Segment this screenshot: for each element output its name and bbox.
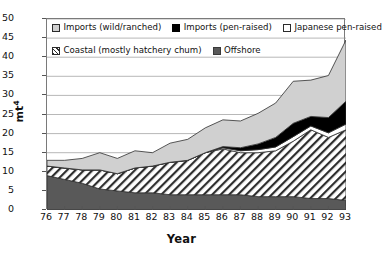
- legend-swatch-japanese: [283, 24, 291, 32]
- y-tick-label: 0: [0, 204, 14, 213]
- legend-swatch-imports-pen: [172, 24, 180, 32]
- y-tick-label: 30: [0, 89, 14, 98]
- legend-label: Offshore: [224, 46, 261, 55]
- legend-item[interactable]: Imports (wild/ranched): [52, 23, 161, 32]
- legend-swatch-offshore: [213, 47, 221, 55]
- y-axis-title-base: mt: [13, 105, 26, 122]
- legend-swatch-coastal: [52, 47, 60, 55]
- legend-item[interactable]: Imports (pen-raised): [172, 23, 272, 32]
- legend-item[interactable]: Offshore: [213, 46, 261, 55]
- y-tick-label: 35: [0, 70, 14, 79]
- y-tick-label: 45: [0, 32, 14, 41]
- legend-row-bottom: Coastal (mostly hatchery chum)Offshore: [52, 46, 261, 55]
- legend-item[interactable]: Japanese pen-raised: [283, 23, 382, 32]
- x-tick-label: 93: [334, 212, 356, 222]
- y-tick-mark: [42, 209, 46, 210]
- legend-label: Imports (pen-raised): [184, 23, 272, 32]
- y-tick-label: 5: [0, 185, 14, 194]
- y-axis-title-exponent: 4: [12, 100, 21, 105]
- x-axis-title: Year: [0, 232, 363, 246]
- y-tick-label: 25: [0, 109, 14, 118]
- y-tick-label: 20: [0, 128, 14, 137]
- legend-label: Coastal (mostly hatchery chum): [64, 46, 202, 55]
- legend-label: Japanese pen-raised: [294, 23, 381, 32]
- legend-item[interactable]: Coastal (mostly hatchery chum): [52, 46, 202, 55]
- y-tick-label: 50: [0, 13, 14, 22]
- y-tick-label: 10: [0, 166, 14, 175]
- legend-swatch-imports-wild: [52, 24, 60, 32]
- area-series-group: [47, 40, 346, 210]
- y-tick-label: 15: [0, 147, 14, 156]
- y-tick-label: 40: [0, 51, 14, 60]
- legend-label: Imports (wild/ranched): [64, 23, 162, 32]
- legend-row-top: Imports (wild/ranched)Imports (pen-raise…: [52, 23, 382, 32]
